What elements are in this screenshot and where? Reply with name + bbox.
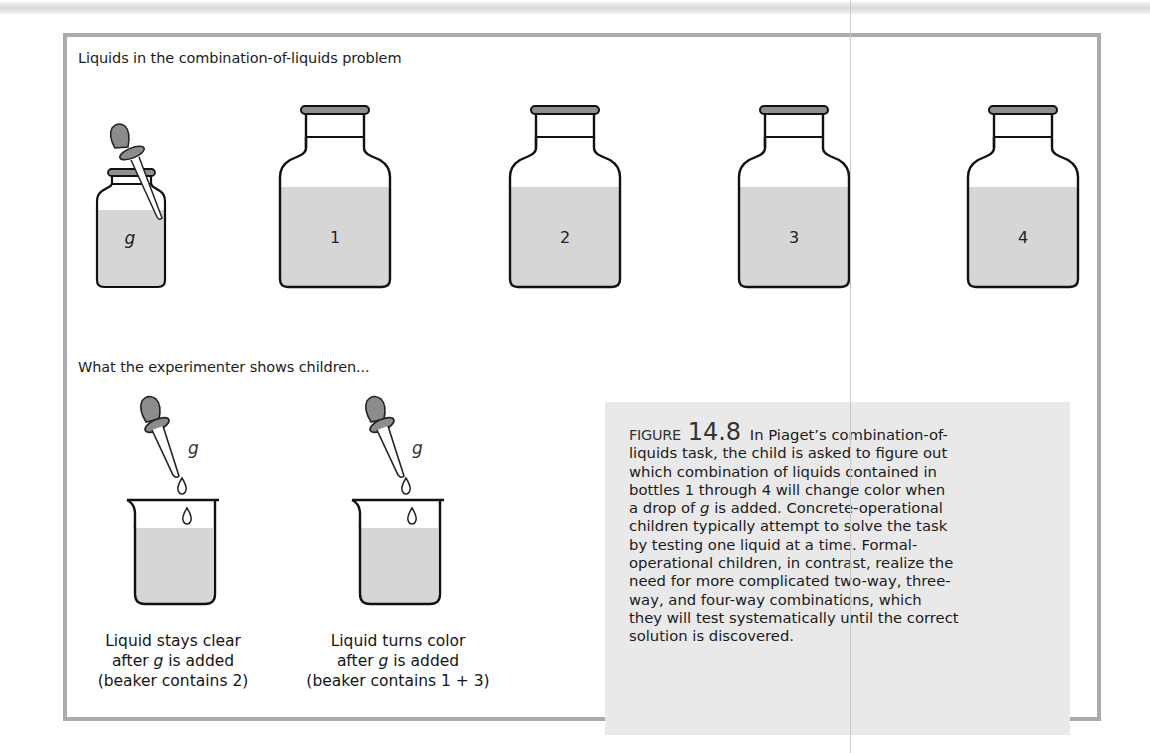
bottle-1-label: 1 [315, 228, 355, 247]
caption-line: (beaker contains 2) [73, 671, 273, 691]
caption-text: after [112, 652, 154, 670]
variable-g: g [153, 652, 163, 670]
caption-line: FIGURE 14.8 In Piaget’s combination-of- [629, 426, 1059, 444]
bottle-3 [739, 106, 849, 287]
page-gutter-line [850, 0, 851, 753]
caption-line: after g is added [73, 651, 273, 671]
caption-line: need for more complicated two-way, three… [629, 572, 1059, 590]
beaker-1 [127, 500, 219, 604]
caption-line: way, and four-way combinations, which [629, 591, 1059, 609]
heading-experimenter-shows: What the experimenter shows children... [78, 359, 370, 375]
bottle-4 [968, 106, 1078, 287]
caption-text: is added. Concrete-operational [709, 499, 943, 516]
bottle-2 [510, 106, 620, 287]
figure-word: FIGURE [629, 427, 681, 443]
dropper-1-label: g [188, 438, 199, 458]
beaker-2-caption: Liquid turns color after g is added (bea… [298, 631, 498, 691]
caption-line: they will test systematically until the … [629, 609, 1059, 627]
bottle-g-label: g [110, 228, 150, 248]
caption-line: which combination of liquids contained i… [629, 463, 1059, 481]
caption-text: is added [388, 652, 459, 670]
caption-line: by testing one liquid at a time. Formal- [629, 536, 1059, 554]
dropper-2 [366, 396, 404, 477]
dropper-1 [141, 396, 179, 477]
caption-text: after [337, 652, 379, 670]
caption-line: children typically attempt to solve the … [629, 517, 1059, 535]
caption-line: Liquid turns color [298, 631, 498, 651]
caption-text: is added [163, 652, 234, 670]
bottle-3-label: 3 [774, 228, 814, 247]
caption-line: a drop of g is added. Concrete-operation… [629, 499, 1059, 517]
caption-text: a drop of [629, 499, 700, 516]
caption-line: liquids task, the child is asked to figu… [629, 444, 1059, 462]
caption-line: Liquid stays clear [73, 631, 273, 651]
drop-in-beaker-2 [408, 508, 416, 524]
caption-text: In Piaget’s combination-of- [750, 426, 948, 443]
figure-number: 14.8 [688, 418, 741, 446]
bottle-1 [280, 106, 390, 287]
drop-falling-1 [178, 478, 186, 494]
dropper-2-label: g [412, 438, 423, 458]
variable-g: g [378, 652, 388, 670]
bottle-g [97, 124, 165, 287]
figure-caption: FIGURE 14.8 In Piaget’s combination-of- … [629, 426, 1059, 646]
beaker-2 [352, 500, 444, 604]
bottle-4-label: 4 [1003, 228, 1043, 247]
caption-line: operational children, in contrast, reali… [629, 554, 1059, 572]
bottle-2-label: 2 [545, 228, 585, 247]
drop-in-beaker-1 [183, 508, 191, 524]
caption-line: bottles 1 through 4 will change color wh… [629, 481, 1059, 499]
caption-line: after g is added [298, 651, 498, 671]
caption-line: solution is discovered. [629, 627, 1059, 645]
caption-line: (beaker contains 1 + 3) [298, 671, 498, 691]
beaker-1-caption: Liquid stays clear after g is added (bea… [73, 631, 273, 691]
drop-falling-2 [402, 478, 410, 494]
